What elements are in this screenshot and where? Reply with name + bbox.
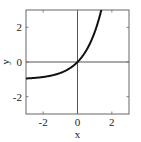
line-chart: -202-202xy bbox=[0, 0, 141, 142]
x-tick-label: 2 bbox=[109, 116, 115, 128]
y-tick-label: 2 bbox=[17, 21, 23, 33]
y-axis-label: y bbox=[0, 59, 11, 65]
x-tick-label: -2 bbox=[39, 116, 48, 128]
y-tick-label: -2 bbox=[13, 91, 22, 103]
y-tick-label: 0 bbox=[17, 56, 23, 68]
x-tick-label: 0 bbox=[75, 116, 81, 128]
x-axis-label: x bbox=[75, 128, 81, 140]
